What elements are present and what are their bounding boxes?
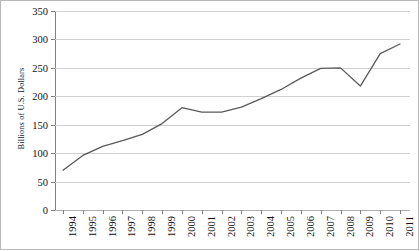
y-tick-label: 200 xyxy=(32,91,48,102)
x-tick-label: 1998 xyxy=(146,216,157,237)
x-tick-label: 1995 xyxy=(87,216,98,237)
x-tick-mark xyxy=(182,210,183,214)
y-axis-title: Billions of U.S. Dollars xyxy=(17,34,26,184)
x-tick-label: 2006 xyxy=(305,216,316,237)
x-tick-mark xyxy=(400,210,401,214)
gridline xyxy=(55,210,410,211)
x-tick-label: 1997 xyxy=(126,216,137,237)
x-tick-mark xyxy=(103,210,104,214)
x-tick-mark xyxy=(261,210,262,214)
x-tick-label: 2010 xyxy=(384,216,395,237)
x-tick-label: 2008 xyxy=(345,216,356,237)
x-tick-mark xyxy=(360,210,361,214)
x-tick-mark xyxy=(162,210,163,214)
x-tick-label: 1994 xyxy=(67,216,78,237)
x-tick-mark xyxy=(301,210,302,214)
x-tick-label: 1999 xyxy=(166,216,177,237)
x-tick-mark xyxy=(63,210,64,214)
x-tick-mark xyxy=(321,210,322,214)
x-tick-label: 2001 xyxy=(206,216,217,237)
x-tick-mark xyxy=(202,210,203,214)
y-tick-label: 50 xyxy=(38,176,49,187)
x-tick-mark xyxy=(341,210,342,214)
y-tick-label: 100 xyxy=(32,148,48,159)
x-tick-mark xyxy=(281,210,282,214)
series-line xyxy=(55,11,410,210)
x-tick-label: 2003 xyxy=(245,216,256,237)
x-tick-mark xyxy=(142,210,143,214)
x-tick-label: 2000 xyxy=(186,216,197,237)
x-tick-label: 2002 xyxy=(226,216,237,237)
x-tick-mark xyxy=(122,210,123,214)
y-tick-label: 350 xyxy=(32,6,48,17)
y-tick-mark xyxy=(51,210,55,211)
x-tick-label: 1996 xyxy=(107,216,118,237)
series-polyline xyxy=(63,44,400,170)
x-tick-label: 2007 xyxy=(325,216,336,237)
y-tick-label: 250 xyxy=(32,62,48,73)
x-tick-label: 2009 xyxy=(364,216,375,237)
plot-area: 050100150200250300350 199419951996199719… xyxy=(55,11,410,210)
y-tick-label: 150 xyxy=(32,119,48,130)
x-tick-label: 2011 xyxy=(404,216,415,237)
line-chart: Billions of U.S. Dollars 050100150200250… xyxy=(0,0,420,251)
x-tick-label: 2005 xyxy=(285,216,296,237)
x-tick-mark xyxy=(83,210,84,214)
x-tick-mark xyxy=(380,210,381,214)
y-tick-label: 300 xyxy=(32,34,48,45)
y-tick-label: 0 xyxy=(43,205,48,216)
x-tick-mark xyxy=(222,210,223,214)
x-tick-mark xyxy=(241,210,242,214)
x-tick-label: 2004 xyxy=(265,216,276,237)
